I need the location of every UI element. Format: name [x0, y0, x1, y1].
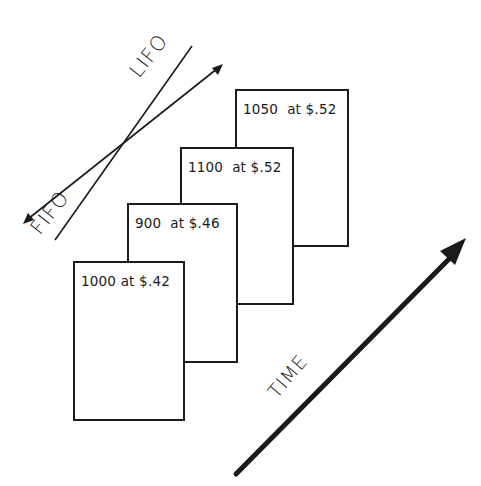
- arrowhead-up-icon: [212, 64, 223, 75]
- layer-label-1: 1000 at $.42: [81, 273, 170, 289]
- layer-label-3: 1100 at $.52: [188, 159, 281, 175]
- layer-box-1: 1000 at $.42: [73, 261, 185, 421]
- layer-label-2: 900 at $.46: [135, 215, 220, 231]
- inventory-diagram: 1050 at $.52 1100 at $.52 900 at $.46 10…: [0, 0, 481, 486]
- layer-label-4: 1050 at $.52: [243, 101, 336, 117]
